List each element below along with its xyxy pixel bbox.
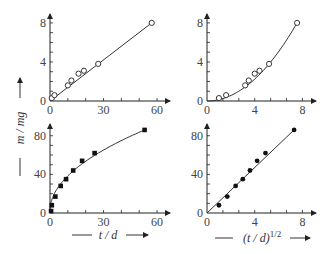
y-tick-label: 4 bbox=[197, 55, 203, 69]
x-axis-label-left-text: t / d bbox=[99, 228, 119, 242]
x-axis-label-left: t / d bbox=[72, 228, 148, 242]
data-point bbox=[223, 93, 228, 98]
data-point bbox=[53, 194, 58, 199]
panel-bottom-right: 04804080 bbox=[191, 124, 316, 229]
chart-panels: 03060048048048030600408004804080 bbox=[34, 14, 316, 229]
y-tick-label: 8 bbox=[197, 16, 203, 30]
panel-top-left: 03060048 bbox=[40, 14, 170, 117]
data-point bbox=[243, 83, 248, 88]
fit-line bbox=[207, 23, 297, 101]
data-point bbox=[71, 168, 76, 173]
data-point bbox=[248, 168, 253, 173]
x-axis-label-right-text: (t / d)1/2 bbox=[243, 229, 281, 245]
data-point bbox=[80, 159, 85, 164]
fit-line bbox=[50, 130, 145, 213]
y-tick-label: 0 bbox=[40, 206, 46, 220]
data-point bbox=[142, 128, 147, 133]
data-point bbox=[263, 151, 268, 156]
data-point bbox=[92, 151, 97, 156]
data-point bbox=[246, 78, 251, 83]
data-point bbox=[96, 61, 101, 66]
y-tick-label: 8 bbox=[40, 16, 46, 30]
y-tick-label: 0 bbox=[197, 206, 203, 220]
y-axis-label: m / mg bbox=[13, 78, 27, 176]
panel-top-right: 048048 bbox=[197, 14, 316, 117]
x-tick-label: 8 bbox=[299, 215, 305, 229]
y-tick-label: 4 bbox=[40, 55, 46, 69]
y-tick-label: 40 bbox=[34, 167, 46, 181]
x-tick-label: 4 bbox=[252, 215, 258, 229]
x-tick-label: 0 bbox=[47, 103, 53, 117]
x-tick-label: 4 bbox=[252, 103, 258, 117]
data-point bbox=[69, 78, 74, 83]
data-point bbox=[217, 203, 222, 208]
data-point bbox=[255, 158, 260, 163]
data-point bbox=[81, 68, 86, 73]
data-point bbox=[216, 95, 221, 100]
data-point bbox=[149, 20, 154, 25]
x-tick-label: 60 bbox=[151, 103, 163, 117]
fit-line bbox=[50, 23, 152, 101]
y-tick-label: 80 bbox=[191, 129, 203, 143]
data-point bbox=[58, 184, 63, 189]
x-tick-label: 0 bbox=[204, 103, 210, 117]
data-point bbox=[266, 61, 271, 66]
data-point bbox=[252, 71, 257, 76]
x-tick-label: 30 bbox=[98, 215, 110, 229]
data-point bbox=[225, 194, 230, 199]
data-point bbox=[49, 209, 54, 214]
y-tick-label: 0 bbox=[40, 94, 46, 108]
x-tick-label: 0 bbox=[47, 215, 53, 229]
data-point bbox=[292, 128, 297, 133]
x-tick-label: 60 bbox=[151, 215, 163, 229]
y-tick-label: 40 bbox=[191, 167, 203, 181]
data-point bbox=[52, 93, 57, 98]
x-tick-label: 30 bbox=[98, 103, 110, 117]
x-axis-label-exponent: 1/2 bbox=[270, 229, 282, 239]
data-point bbox=[257, 68, 262, 73]
x-tick-label: 8 bbox=[299, 103, 305, 117]
data-point bbox=[233, 184, 238, 189]
data-point bbox=[76, 71, 81, 76]
data-point bbox=[64, 177, 69, 182]
data-point bbox=[49, 203, 54, 208]
data-point bbox=[240, 177, 245, 182]
data-point bbox=[65, 83, 70, 88]
y-tick-label: 80 bbox=[34, 129, 46, 143]
panel-bottom-left: 0306004080 bbox=[34, 124, 170, 229]
x-tick-label: 0 bbox=[204, 215, 210, 229]
y-tick-label: 0 bbox=[197, 94, 203, 108]
figure-canvas: 03060048048048030600408004804080 m / mg … bbox=[0, 0, 329, 254]
y-axis-label-text: m / mg bbox=[13, 112, 27, 145]
x-axis-label-right: (t / d)1/2 bbox=[215, 229, 310, 245]
data-point bbox=[294, 20, 299, 25]
